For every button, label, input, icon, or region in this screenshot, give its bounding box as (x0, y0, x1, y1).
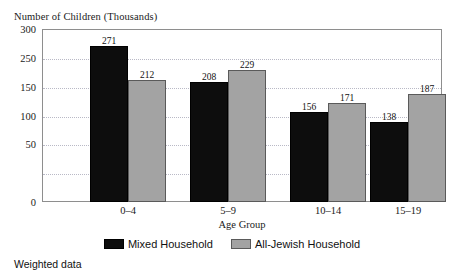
x-tick-label-0-4: 0–4 (120, 205, 136, 216)
x-axis-ticks: 0–4 5–9 10–14 15–19 (42, 205, 442, 219)
y-axis-ticks: 300 250 150 100 50 0 (0, 29, 38, 202)
bar-mixed-10-14[interactable]: 156 (290, 112, 328, 202)
y-tick-label: 50 (0, 139, 36, 150)
x-tick-label-15-19: 15–19 (395, 205, 421, 216)
bar-group-15-19: 138 187 (370, 29, 450, 202)
y-tick-label: 150 (0, 81, 36, 92)
bar-group-0-4: 271 212 (90, 29, 170, 202)
chart-legend: Mixed Household All-Jewish Household (0, 238, 464, 250)
x-tick-label-5-9: 5–9 (220, 205, 236, 216)
y-tick-label: 250 (0, 52, 36, 63)
bar-value-label: 171 (340, 93, 354, 103)
bar-value-label: 212 (140, 70, 154, 80)
bar-chart-figure: Number of Children (Thousands) 300 250 1… (0, 0, 464, 275)
legend-label: Mixed Household (128, 238, 213, 250)
y-tick-label: 0 (0, 197, 36, 208)
y-tick-label: 300 (0, 24, 36, 35)
bar-alljewish-0-4[interactable]: 212 (128, 80, 166, 202)
legend-label: All-Jewish Household (255, 238, 360, 250)
x-axis-title: Age Group (42, 219, 442, 230)
bar-value-label: 156 (302, 102, 316, 112)
bar-alljewish-5-9[interactable]: 229 (228, 70, 266, 202)
x-tick-label-10-14: 10–14 (315, 205, 341, 216)
bar-mixed-5-9[interactable]: 208 (190, 82, 228, 202)
legend-swatch-icon (104, 239, 124, 249)
legend-item-mixed-household[interactable]: Mixed Household (104, 238, 213, 250)
bar-group-5-9: 208 229 (190, 29, 270, 202)
bar-value-label: 138 (382, 112, 396, 122)
bar-value-label: 271 (102, 36, 116, 46)
bar-alljewish-10-14[interactable]: 171 (328, 103, 366, 202)
chart-footnote: Weighted data (14, 258, 82, 270)
bar-value-label: 208 (202, 72, 216, 82)
bar-mixed-15-19[interactable]: 138 (370, 122, 408, 202)
legend-swatch-icon (231, 239, 251, 249)
y-axis-title: Number of Children (Thousands) (14, 11, 157, 22)
bars-layer: 271 212 208 229 156 171 138 (42, 29, 442, 202)
bar-value-label: 229 (240, 60, 254, 70)
bar-value-label: 187 (420, 84, 434, 94)
bar-alljewish-15-19[interactable]: 187 (408, 94, 446, 202)
bar-mixed-0-4[interactable]: 271 (90, 46, 128, 202)
bar-group-10-14: 156 171 (290, 29, 370, 202)
y-tick-label: 100 (0, 110, 36, 121)
legend-item-all-jewish-household[interactable]: All-Jewish Household (231, 238, 360, 250)
